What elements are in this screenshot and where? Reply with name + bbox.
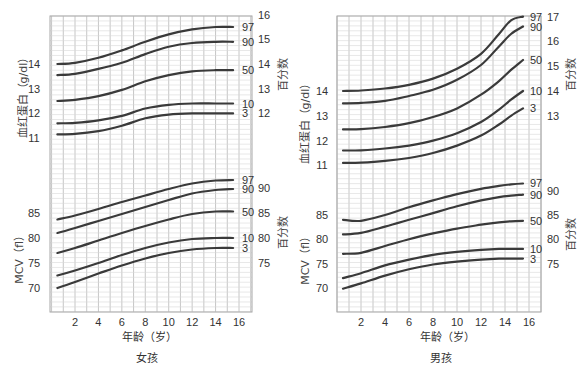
- right-y-tick: 15: [547, 60, 559, 72]
- percentile-label-90: 90: [530, 189, 542, 201]
- percentile-label-50: 50: [242, 64, 254, 76]
- x-tick: 12: [186, 316, 198, 328]
- left-y-tick: 75: [316, 258, 328, 270]
- hemoglobin-section: 111213141213141516979050103: [28, 9, 270, 145]
- girls-mcv-ylabel: MCV（fl）: [10, 207, 26, 307]
- right-y-tick: 16: [258, 9, 270, 21]
- percentile-label-97: 97: [242, 21, 254, 33]
- x-axis-ticks: 246810121416: [72, 316, 245, 328]
- mcv-section: 7075808575808590979050103: [316, 177, 559, 293]
- x-tick: 10: [163, 316, 175, 328]
- left-y-tick: 14: [316, 85, 328, 97]
- right-y-tick: 12: [258, 107, 270, 119]
- percentile-label-90: 90: [242, 36, 254, 48]
- left-y-tick: 85: [316, 209, 328, 221]
- girls-panel: 2468101214161112131412131415169790501037…: [28, 9, 270, 328]
- percentile-label-50: 50: [530, 215, 542, 227]
- percentile-label-50: 50: [530, 54, 542, 66]
- girls-xlabel: 年龄（岁）: [122, 328, 177, 344]
- x-tick: 16: [523, 316, 535, 328]
- hemoglobin-section: 111213141314151617979050103: [316, 11, 559, 172]
- right-y-tick: 16: [547, 35, 559, 47]
- boys-mcv-right-label: 百分数: [562, 209, 578, 259]
- x-tick: 4: [382, 316, 388, 328]
- x-tick: 2: [358, 316, 364, 328]
- right-y-tick: 15: [258, 33, 270, 45]
- right-y-tick: 13: [547, 110, 559, 122]
- girls-hb-ylabel: 血红蛋白（g/dl）: [14, 35, 30, 155]
- left-y-tick: 85: [28, 207, 40, 219]
- left-y-tick: 11: [316, 159, 327, 171]
- boys-mcv-ylabel: MCV（fl）: [296, 208, 312, 308]
- x-tick: 8: [142, 316, 148, 328]
- boys-panel: 2468101214161112131413141516179790501037…: [316, 11, 559, 328]
- percentile-label-90: 90: [242, 183, 254, 195]
- percentile-label-90: 90: [530, 21, 542, 33]
- left-y-tick: 11: [28, 132, 39, 144]
- right-y-tick: 85: [258, 207, 270, 219]
- grid: [50, 16, 252, 312]
- boys-hb-right-label: 百分数: [562, 49, 578, 99]
- left-y-tick: 80: [28, 232, 40, 244]
- girls-hb-right-label: 百分数: [274, 49, 290, 99]
- right-y-tick: 13: [258, 83, 270, 95]
- left-y-tick: 70: [316, 282, 328, 294]
- percentile-label-3: 3: [530, 253, 536, 265]
- percentile-label-3: 3: [242, 242, 248, 254]
- percentile-label-3: 3: [530, 102, 536, 114]
- right-y-tick: 17: [547, 11, 559, 23]
- girls-title: 女孩: [136, 349, 158, 365]
- right-y-tick: 90: [258, 182, 270, 194]
- x-tick: 14: [209, 316, 221, 328]
- boys-title: 男孩: [430, 349, 452, 365]
- x-tick: 14: [499, 316, 511, 328]
- left-y-tick: 12: [316, 135, 328, 147]
- percentile-label-50: 50: [242, 206, 254, 218]
- boys-xlabel: 年龄（岁）: [420, 328, 475, 344]
- girls-mcv-right-label: 百分数: [274, 207, 290, 257]
- x-tick: 12: [475, 316, 487, 328]
- left-y-tick: 80: [316, 233, 328, 245]
- x-tick: 2: [72, 316, 78, 328]
- boys-hb-ylabel: 血红蛋白（g/dl）: [296, 61, 312, 181]
- right-y-tick: 75: [258, 257, 270, 269]
- right-y-tick: 75: [547, 258, 559, 270]
- x-tick: 8: [430, 316, 436, 328]
- right-y-tick: 90: [547, 185, 559, 197]
- x-tick: 4: [95, 316, 101, 328]
- right-y-tick: 14: [258, 58, 270, 70]
- left-y-tick: 13: [316, 110, 328, 122]
- left-y-tick: 70: [28, 282, 40, 294]
- right-y-tick: 80: [547, 233, 559, 245]
- right-y-tick: 85: [547, 209, 559, 221]
- right-y-tick: 80: [258, 232, 270, 244]
- left-y-tick: 75: [28, 257, 40, 269]
- x-tick: 10: [451, 316, 463, 328]
- mcv-section: 7075808575808590979050103: [28, 174, 270, 294]
- growth-charts: 2468101214161112131412131415169790501037…: [0, 0, 584, 376]
- right-y-tick: 14: [547, 85, 559, 97]
- x-tick: 6: [119, 316, 125, 328]
- percentile-label-3: 3: [242, 107, 248, 119]
- x-tick: 16: [233, 316, 245, 328]
- grid: [337, 16, 541, 312]
- x-axis-ticks: 246810121416: [358, 316, 535, 328]
- x-tick: 6: [406, 316, 412, 328]
- percentile-label-10: 10: [530, 85, 542, 97]
